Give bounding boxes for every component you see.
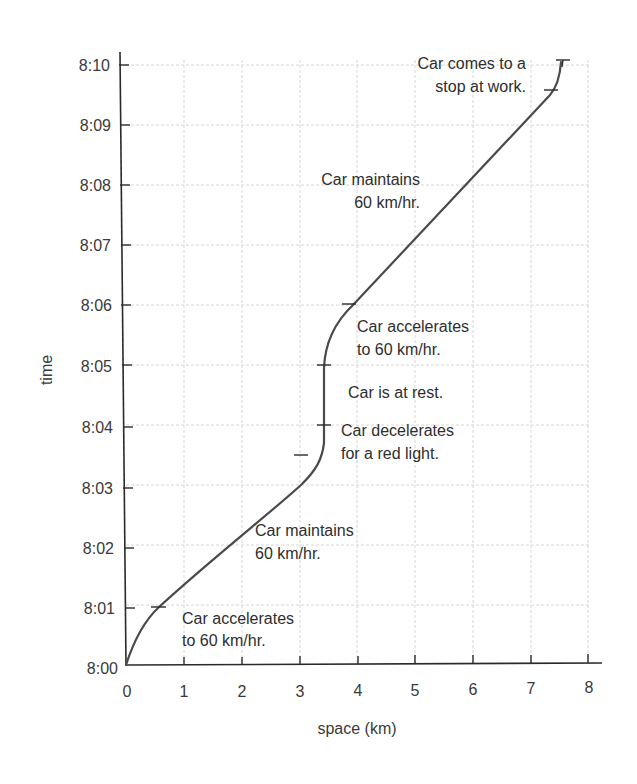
svg-text:Car comes to a: Car comes to a [418,55,527,72]
y-tick-label: 8:04 [82,419,113,436]
y-tick-label: 8:08 [80,177,111,194]
x-tick-label: 6 [469,681,478,698]
x-axis-title: space (km) [317,720,396,737]
y-tick-labels: 8:10 8:09 8:08 8:07 8:06 8:05 8:04 8:03 … [79,57,118,677]
distance-time-chart: 8:10 8:09 8:08 8:07 8:06 8:05 8:04 8:03 … [0,0,637,784]
x-tick-label: 5 [411,682,420,699]
y-tick-label: 8:06 [81,297,112,314]
svg-text:60 km/hr.: 60 km/hr. [354,194,420,211]
svg-text:Car accelerates: Car accelerates [182,610,294,627]
annotation-maintain-2: Car maintains 60 km/hr. [321,171,420,211]
axes [120,52,602,665]
x-axis [126,663,602,665]
y-axis [120,52,126,665]
annotation-maintain-1: Car maintains 60 km/hr. [255,522,354,562]
y-tick-label: 8:10 [79,57,110,74]
svg-text:60 km/hr.: 60 km/hr. [255,545,321,562]
svg-text:Car accelerates: Car accelerates [357,318,469,335]
svg-text:Car is at rest.: Car is at rest. [348,384,443,401]
x-tick-label: 4 [354,682,363,699]
y-tick-label: 8:05 [81,358,112,375]
annotation-decelerate: Car decelerates for a red light. [341,422,454,462]
x-tick-label: 7 [527,680,536,697]
y-tick-label: 8:00 [87,660,118,677]
annotation-stop: Car comes to a stop at work. [418,55,527,95]
annotation-accelerate-1: Car accelerates to 60 km/hr. [182,610,294,649]
annotation-accelerate-2: Car accelerates to 60 km/hr. [357,318,469,358]
x-tick-label: 0 [123,683,132,700]
y-axis-title: time [38,355,55,385]
svg-text:Car maintains: Car maintains [255,522,354,539]
y-tick-label: 8:01 [84,600,115,617]
svg-text:for a red light.: for a red light. [341,445,439,462]
svg-text:stop at work.: stop at work. [435,78,526,95]
y-tick-label: 8:09 [80,117,111,134]
x-tick-label: 8 [585,679,594,696]
x-tick-label: 1 [180,683,189,700]
position-time-curve [126,62,561,665]
x-tick-label: 2 [238,683,247,700]
x-tick-labels: 0 1 2 3 4 5 6 7 8 [123,679,594,700]
svg-text:Car decelerates: Car decelerates [341,422,454,439]
y-tick-label: 8:02 [83,540,114,557]
svg-text:to 60 km/hr.: to 60 km/hr. [182,632,266,649]
x-tick-label: 3 [296,683,305,700]
svg-text:to 60 km/hr.: to 60 km/hr. [357,341,441,358]
y-tick-label: 8:07 [80,237,111,254]
y-tick-label: 8:03 [82,480,113,497]
svg-text:Car maintains: Car maintains [321,171,420,188]
annotation-rest: Car is at rest. [348,384,443,401]
